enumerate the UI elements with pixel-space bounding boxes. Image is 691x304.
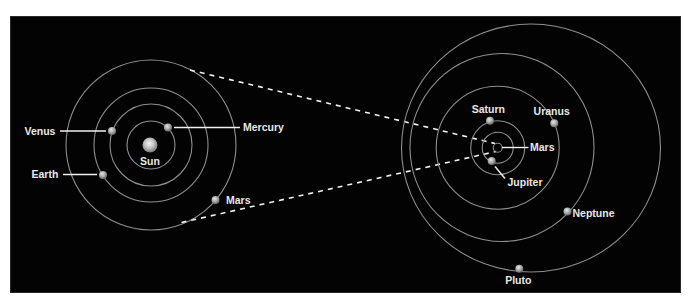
- inner-system: Sun Mercury Venus Earth Mars: [25, 60, 285, 230]
- diagram-canvas: Sun Mercury Venus Earth Mars: [0, 0, 691, 304]
- uranus-planet-icon: [550, 119, 558, 127]
- earth-label: Earth: [32, 168, 59, 180]
- jupiter-planet-icon: [488, 157, 496, 165]
- venus-label: Venus: [25, 125, 56, 137]
- pluto-planet-icon: [515, 265, 523, 273]
- mercury-label: Mercury: [243, 121, 284, 133]
- venus-planet-icon: [108, 127, 116, 135]
- earth-planet-icon: [99, 171, 107, 179]
- pluto-label: Pluto: [505, 274, 531, 286]
- zoom-connector-upper: [190, 70, 495, 144]
- neptune-label: Neptune: [573, 207, 615, 219]
- sun-icon: [143, 138, 158, 153]
- solar-system-diagram: Sun Mercury Venus Earth Mars: [0, 0, 691, 304]
- sun-label: Sun: [140, 155, 160, 167]
- mercury-planet-icon: [164, 124, 172, 132]
- mars-planet-icon: [212, 196, 220, 204]
- jupiter-label: Jupiter: [507, 176, 542, 188]
- uranus-label: Uranus: [534, 105, 570, 117]
- neptune-planet-icon: [564, 208, 572, 216]
- saturn-planet-icon: [486, 117, 494, 125]
- mars-label-outer: Mars: [530, 141, 555, 153]
- mars-label-inner: Mars: [226, 194, 251, 206]
- jupiter-leader-line: [495, 167, 505, 179]
- zoom-connector-lower: [182, 152, 497, 223]
- mars-orbit-outer: [493, 143, 502, 152]
- saturn-label: Saturn: [472, 103, 505, 115]
- outer-system: Saturn Uranus Mars Jupiter Neptune Pluto: [402, 24, 661, 286]
